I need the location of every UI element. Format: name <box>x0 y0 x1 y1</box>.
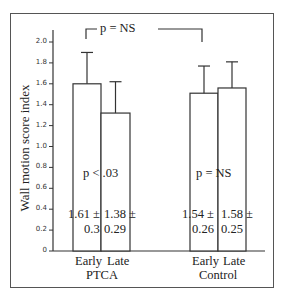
ptca-late-label: Late <box>107 254 129 269</box>
ptca-early-sd: 0.3 <box>84 222 100 237</box>
y-tick-label: 0.6 <box>17 183 47 191</box>
ptca-late-mean: 1.38 ± <box>104 207 136 222</box>
ptca-late-sd: 0.29 <box>104 222 126 237</box>
bracket-right <box>158 29 202 42</box>
control-early-mean: 1.54 ± <box>182 207 214 222</box>
control-early-label: Early <box>192 254 219 269</box>
y-tick-label: 1.2 <box>17 121 47 129</box>
y-tick-label: 1.4 <box>17 100 47 108</box>
control-early-sd: 0.26 <box>192 222 214 237</box>
y-tick-label: 1.0 <box>17 142 47 150</box>
y-tick-label: 0 <box>17 246 47 254</box>
bracket-p-label: p = NS <box>100 21 136 36</box>
y-tick-label: 2.0 <box>17 37 47 45</box>
control-group-label: Control <box>199 268 237 283</box>
control-late-mean: 1.58 ± <box>221 207 253 222</box>
control-p-label: p = NS <box>196 166 232 181</box>
ptca-group-label: PTCA <box>86 268 118 283</box>
y-tick-label: 1.6 <box>17 79 47 87</box>
y-tick-label: 0.2 <box>17 225 47 233</box>
ptca-early-mean: 1.61 ± <box>68 207 100 222</box>
bracket-left <box>86 29 97 39</box>
ptca-early-label: Early <box>75 254 102 269</box>
y-tick-label: 0.4 <box>17 204 47 212</box>
control-late-label: Late <box>223 254 245 269</box>
y-tick-label: 1.8 <box>17 58 47 66</box>
ptca-p-label: p < .03 <box>83 166 118 181</box>
control-late-sd: 0.25 <box>221 222 243 237</box>
y-tick-label: 0.8 <box>17 162 47 170</box>
